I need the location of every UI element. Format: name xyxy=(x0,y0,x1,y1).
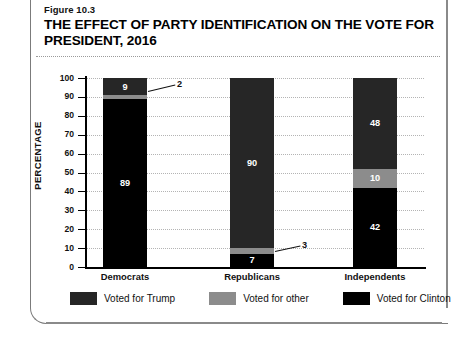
y-axis-tick xyxy=(78,173,85,174)
bar-segment-value: 42 xyxy=(370,222,380,232)
plot-area: 989907481042 xyxy=(86,78,424,267)
legend-swatch xyxy=(70,292,97,305)
stacked-bar-chart: PERCENTAGE 989907481042 1009080706050403… xyxy=(0,0,452,341)
bar-segment: 7 xyxy=(230,254,274,267)
y-axis-tick xyxy=(78,267,85,268)
y-axis-tick xyxy=(78,248,85,249)
y-axis-tick xyxy=(78,97,85,98)
bar-segment-value: 48 xyxy=(370,118,380,128)
y-axis-tick-label: 50 xyxy=(44,168,74,177)
y-axis-tick-label: 20 xyxy=(44,225,74,234)
bar-segment-value: 89 xyxy=(120,178,130,188)
legend-label: Voted for other xyxy=(243,293,309,304)
legend-swatch xyxy=(343,292,370,305)
y-axis-tick xyxy=(78,191,85,192)
y-axis-tick xyxy=(78,154,85,155)
y-axis-tick xyxy=(78,78,85,79)
bar-democrats: 989 xyxy=(103,78,147,267)
y-axis-line xyxy=(85,76,87,269)
y-axis-tick-label: 40 xyxy=(44,187,74,196)
y-axis-tick-label: 10 xyxy=(44,244,74,253)
bar-segment: 48 xyxy=(353,78,397,169)
bar-segment: 89 xyxy=(103,99,147,267)
legend-item[interactable]: Voted for Trump xyxy=(70,292,175,305)
x-axis-label-independents: Independents xyxy=(315,271,435,282)
x-axis-label-democrats: Democrats xyxy=(65,271,185,282)
bar-segment-value: 9 xyxy=(122,82,127,92)
y-axis-tick-label: 80 xyxy=(44,111,74,120)
y-axis-tick xyxy=(78,229,85,230)
x-axis-line xyxy=(85,267,426,269)
y-axis-tick-labels: 1009080706050403020100 xyxy=(44,0,74,341)
bar-segment-value: 90 xyxy=(247,158,257,168)
y-axis-tick-label: 60 xyxy=(44,149,74,158)
chart-legend: Voted for TrumpVoted for otherVoted for … xyxy=(70,292,451,305)
y-axis-title: PERCENTAGE xyxy=(32,96,43,216)
bar-independents: 481042 xyxy=(353,78,397,267)
bar-segment-value: 10 xyxy=(370,173,380,183)
y-axis-tick xyxy=(78,135,85,136)
bar-republicans: 907 xyxy=(230,78,274,267)
legend-label: Voted for Clinton xyxy=(377,293,451,304)
callout-value: 3 xyxy=(302,240,307,250)
legend-item[interactable]: Voted for other xyxy=(209,292,309,305)
callout-value: 2 xyxy=(177,79,182,89)
y-axis-tick xyxy=(78,210,85,211)
bar-segment: 90 xyxy=(230,78,274,248)
legend-item[interactable]: Voted for Clinton xyxy=(343,292,451,305)
y-axis-tick-label: 100 xyxy=(44,74,74,83)
y-axis-tick-label: 90 xyxy=(44,92,74,101)
legend-label: Voted for Trump xyxy=(104,293,175,304)
bar-segment: 42 xyxy=(353,188,397,267)
x-axis-label-republicans: Republicans xyxy=(192,271,312,282)
bar-segment-value: 7 xyxy=(249,255,254,265)
bar-segment: 9 xyxy=(103,78,147,95)
legend-swatch xyxy=(209,292,236,305)
y-axis-tick-label: 30 xyxy=(44,206,74,215)
y-axis-tick-label: 70 xyxy=(44,130,74,139)
bar-segment: 10 xyxy=(353,169,397,188)
y-axis-tick xyxy=(78,116,85,117)
